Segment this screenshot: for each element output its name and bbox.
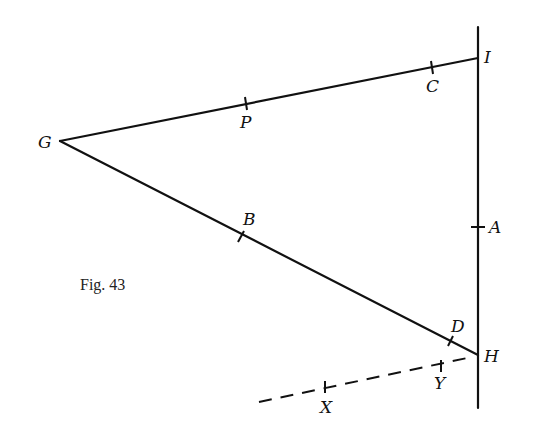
label-G: G [38,132,52,152]
geometry-figure: G P C I B A D H Y X Fig. 43 [0,0,534,427]
label-I: I [483,47,491,67]
label-H: H [483,346,500,366]
label-Y: Y [434,373,447,393]
label-B: B [242,209,256,229]
label-A: A [487,217,501,237]
tick-C [431,61,433,74]
label-X: X [318,397,333,417]
label-C: C [426,76,439,96]
figure-caption: Fig. 43 [80,276,125,294]
label-D: D [450,316,465,336]
tick-P [245,97,247,110]
segment-GI [60,58,478,141]
segment-GH [60,141,478,355]
label-P: P [239,112,252,132]
